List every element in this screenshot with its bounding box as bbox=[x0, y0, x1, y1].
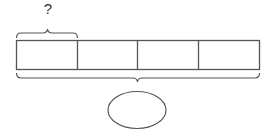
tape-diagram bbox=[0, 0, 269, 137]
total-brace bbox=[17, 73, 260, 82]
total-answer-oval[interactable] bbox=[108, 92, 166, 129]
part-brace bbox=[17, 29, 78, 38]
